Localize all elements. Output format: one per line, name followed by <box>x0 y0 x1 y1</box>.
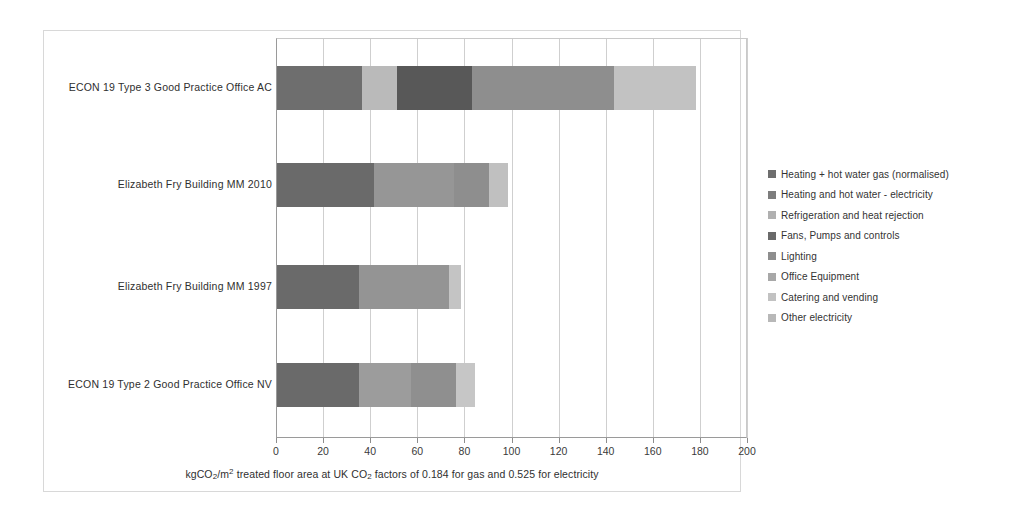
bar-segment[interactable] <box>359 265 448 309</box>
legend-item[interactable]: Other electricity <box>768 308 1018 329</box>
x-axis-tick <box>559 438 560 443</box>
x-axis: 020406080100120140160180200 <box>276 438 747 464</box>
bar-segment[interactable] <box>374 163 454 207</box>
bar-segment[interactable] <box>411 363 456 407</box>
bar-row[interactable] <box>277 265 461 309</box>
category-label: Elizabeth Fry Building MM 2010 <box>47 178 272 190</box>
legend-item[interactable]: Office Equipment <box>768 267 1018 288</box>
x-axis-tick-label: 200 <box>738 445 756 457</box>
bar-segment[interactable] <box>449 265 461 309</box>
category-label: ECON 19 Type 3 Good Practice Office AC <box>47 81 272 93</box>
x-axis-tick <box>606 438 607 443</box>
x-axis-tick <box>276 438 277 443</box>
x-axis-title: kgCO2/m2 treated floor area at UK CO2 fa… <box>43 466 741 481</box>
bar-segment[interactable] <box>472 66 613 110</box>
x-axis-tick-label: 140 <box>597 445 615 457</box>
bar-segment[interactable] <box>454 163 489 207</box>
legend-swatch-icon <box>768 314 776 322</box>
x-axis-tick-label: 60 <box>411 445 423 457</box>
legend-item[interactable]: Heating and hot water - electricity <box>768 185 1018 206</box>
x-axis-tick-label: 0 <box>273 445 279 457</box>
x-axis-tick <box>370 438 371 443</box>
bar-segment[interactable] <box>456 363 475 407</box>
gridline <box>747 38 748 438</box>
legend-item[interactable]: Fans, Pumps and controls <box>768 226 1018 247</box>
legend-label: Refrigeration and heat rejection <box>781 210 924 221</box>
bar-segment[interactable] <box>489 163 508 207</box>
bar-segment[interactable] <box>277 265 359 309</box>
legend-swatch-icon <box>768 170 776 178</box>
x-axis-tick <box>417 438 418 443</box>
bar-segment[interactable] <box>614 66 696 110</box>
legend-label: Fans, Pumps and controls <box>781 230 900 241</box>
x-axis-tick-label: 120 <box>550 445 568 457</box>
bar-row[interactable] <box>277 66 696 110</box>
bar-segment[interactable] <box>277 66 362 110</box>
x-axis-tick <box>700 438 701 443</box>
category-label: Elizabeth Fry Building MM 1997 <box>47 280 272 292</box>
legend-swatch-icon <box>768 211 776 219</box>
bar-segment[interactable] <box>277 163 374 207</box>
bar-row[interactable] <box>277 363 475 407</box>
legend-item[interactable]: Lighting <box>768 246 1018 267</box>
legend-label: Heating + hot water gas (normalised) <box>781 169 949 180</box>
bar-row[interactable] <box>277 163 508 207</box>
x-axis-tick <box>323 438 324 443</box>
legend-label: Heating and hot water - electricity <box>781 189 933 200</box>
legend-item[interactable]: Refrigeration and heat rejection <box>768 205 1018 226</box>
legend-swatch-icon <box>768 232 776 240</box>
x-axis-tick <box>464 438 465 443</box>
legend-item[interactable]: Heating + hot water gas (normalised) <box>768 164 1018 185</box>
legend-swatch-icon <box>768 252 776 260</box>
bar-segment[interactable] <box>397 66 472 110</box>
category-label: ECON 19 Type 2 Good Practice Office NV <box>47 378 272 390</box>
axis-title-text: kgCO2/m2 treated floor area at UK CO2 fa… <box>185 468 598 480</box>
x-axis-tick <box>512 438 513 443</box>
x-axis-tick-label: 160 <box>644 445 662 457</box>
legend-swatch-icon <box>768 191 776 199</box>
legend-swatch-icon <box>768 273 776 281</box>
chart-legend: Heating + hot water gas (normalised)Heat… <box>768 164 1018 328</box>
x-axis-tick-label: 20 <box>317 445 329 457</box>
x-axis-tick-label: 180 <box>691 445 709 457</box>
bar-segment[interactable] <box>359 363 411 407</box>
category-axis-labels: ECON 19 Type 3 Good Practice Office ACEl… <box>44 38 272 438</box>
legend-swatch-icon <box>768 293 776 301</box>
legend-label: Catering and vending <box>781 292 878 303</box>
x-axis-tick <box>747 438 748 443</box>
bar-segment[interactable] <box>277 363 359 407</box>
legend-label: Other electricity <box>781 312 852 323</box>
legend-label: Lighting <box>781 251 817 262</box>
x-axis-tick-label: 40 <box>364 445 376 457</box>
legend-item[interactable]: Catering and vending <box>768 287 1018 308</box>
legend-label: Office Equipment <box>781 271 859 282</box>
x-axis-tick-label: 80 <box>459 445 471 457</box>
x-axis-tick <box>653 438 654 443</box>
bar-segment[interactable] <box>362 66 397 110</box>
x-axis-tick-label: 100 <box>503 445 521 457</box>
